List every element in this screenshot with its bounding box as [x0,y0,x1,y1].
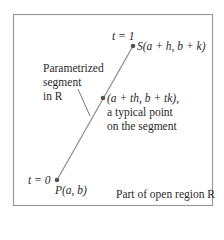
t-equals-1-label: t = 1 [112,30,134,43]
region-caption: Part of open region R [116,188,215,201]
end-point-label: S(a + h, b + k) [137,40,206,53]
segment-label-line3: in R [43,90,63,103]
start-point-label: P(a, b) [55,184,87,197]
segment-label-line1: Parametrized [43,62,104,75]
typical-point-desc-2: on the segment [107,120,177,133]
t-equals-0-label: t = 0 [28,174,50,187]
typical-point-label: (a + th, b + tk), [107,92,179,105]
typical-point-dot [101,96,106,101]
end-point-dot [131,44,136,49]
segment-label-line2: segment [43,76,81,89]
start-point-dot [55,178,60,183]
typical-point-desc-1: a typical point [107,106,173,119]
